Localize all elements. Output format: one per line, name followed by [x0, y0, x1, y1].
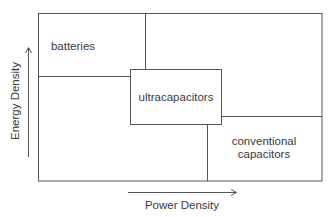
energy-power-diagram: batteries ultracapacitors conventional c… [0, 0, 334, 217]
y-axis-label: Energy Density [9, 62, 21, 140]
conventional-capacitors-label-line1: conventional [232, 135, 297, 147]
ultracapacitors-label: ultracapacitors [139, 91, 214, 103]
batteries-label: batteries [51, 40, 95, 52]
x-axis-label: Power Density [145, 199, 219, 211]
conventional-capacitors-label-line2: capacitors [238, 148, 291, 160]
